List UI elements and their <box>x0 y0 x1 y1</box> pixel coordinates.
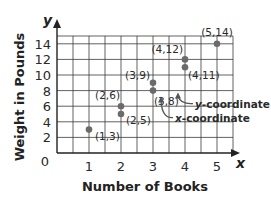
data-point-label: (2,6) <box>95 89 120 101</box>
data-point <box>150 80 157 87</box>
data-point <box>214 41 221 48</box>
data-point-label: (1,3) <box>95 130 120 142</box>
x-tick-label: 5 <box>213 159 221 174</box>
y-tick-label: 12 <box>34 52 51 67</box>
y-tick-label: 8 <box>43 84 51 99</box>
data-point <box>150 87 157 94</box>
data-point-label: (5,14) <box>201 26 233 38</box>
x-tick-label: 1 <box>85 159 93 174</box>
data-point <box>118 111 125 118</box>
y-axis-arrow-icon <box>53 19 61 28</box>
y-tick-label: 2 <box>43 130 51 145</box>
grid <box>57 36 233 153</box>
data-point-label: (4,12) <box>151 43 183 55</box>
data-points: (1,3)(2,6)(2,5)(3,9)(3,8)(4,12)(4,11)(5,… <box>86 26 233 142</box>
x-tick-label: 3 <box>149 159 157 174</box>
data-point-label: (4,11) <box>188 69 220 81</box>
data-point <box>118 103 125 110</box>
y-axis-variable: y <box>43 12 53 28</box>
y-tick-label: 0 <box>41 154 49 169</box>
axes <box>53 19 240 157</box>
data-point-label: (3,8) <box>154 95 179 107</box>
x-tick-label: 4 <box>181 159 189 174</box>
y-axis-title: Weight in Pounds <box>12 32 27 161</box>
data-point <box>86 126 93 133</box>
y-tick-label: 14 <box>34 37 51 52</box>
data-point <box>182 56 189 63</box>
y-tick-label: 4 <box>43 115 51 130</box>
y-tick-label: 6 <box>43 99 51 114</box>
y-coordinate-label: y-coordinate <box>195 98 270 110</box>
x-axis-title: Number of Books <box>82 179 208 194</box>
data-point-label: (2,5) <box>126 114 151 126</box>
y-tick-label: 10 <box>34 68 51 83</box>
data-point-label: (3,9) <box>125 69 150 81</box>
chart-canvas: 1234502468101214 (1,3)(2,6)(2,5)(3,9)(3,… <box>0 0 271 202</box>
x-axis-variable: x <box>235 155 246 171</box>
scatter-chart: 1234502468101214 (1,3)(2,6)(2,5)(3,9)(3,… <box>0 0 271 202</box>
x-tick-label: 2 <box>117 159 125 174</box>
x-coordinate-label: x-coordinate <box>174 112 250 124</box>
